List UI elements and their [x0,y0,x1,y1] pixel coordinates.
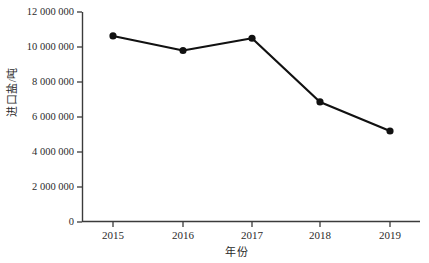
x-tick-label-2018: 2018 [290,229,350,241]
x-tick-label-2019: 2019 [360,229,420,241]
x-tick-label-2015: 2015 [83,229,143,241]
x-axis-title-wrapper: 年份 [0,243,429,259]
x-tick-label-2016: 2016 [153,229,213,241]
line-chart-figure: 进口盐/吨 12 000 000 10 000 000 8 000 000 6 … [0,0,429,263]
x-axis-tick-labels: 2015 2016 2017 2018 2019 [0,0,429,263]
x-axis-title: 年份 [225,246,248,258]
x-tick-label-2017: 2017 [222,229,282,241]
